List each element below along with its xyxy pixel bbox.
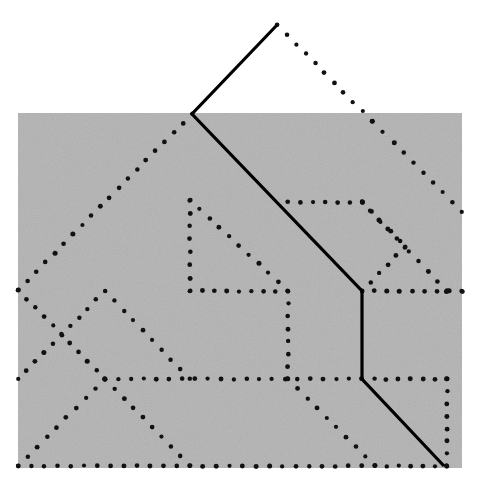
path-dot xyxy=(360,199,364,203)
path-dot xyxy=(395,236,400,241)
path-dot xyxy=(131,406,136,411)
path-dot xyxy=(411,160,415,164)
path-dot xyxy=(269,377,273,381)
path-dot xyxy=(433,377,438,382)
path-dot xyxy=(416,259,421,264)
path-dot xyxy=(80,223,84,227)
path-dot xyxy=(333,464,338,469)
path-dot xyxy=(285,289,289,293)
path-dot xyxy=(102,376,107,381)
path-dot xyxy=(280,464,284,468)
path-dot xyxy=(286,352,291,357)
path-dot xyxy=(200,464,205,469)
path-dot xyxy=(354,444,359,449)
path-dot xyxy=(323,200,328,205)
path-dot xyxy=(346,463,351,468)
path-dot xyxy=(276,279,281,284)
path-dot xyxy=(161,463,166,468)
path-dot xyxy=(311,200,315,204)
path-dot xyxy=(450,200,455,205)
path-dot xyxy=(460,210,464,214)
path-dot xyxy=(51,323,55,327)
path-dot xyxy=(74,406,79,411)
path-dot xyxy=(334,377,338,381)
path-dot xyxy=(200,288,205,293)
path-dot xyxy=(447,288,452,293)
path-dot xyxy=(42,314,47,319)
path-dot xyxy=(61,241,66,246)
path-dot xyxy=(159,348,163,352)
path-dot xyxy=(142,376,146,380)
path-dot xyxy=(370,119,375,124)
path-dot xyxy=(261,289,266,294)
figure-canvas xyxy=(0,0,488,488)
path-dot xyxy=(285,314,290,319)
path-dot xyxy=(433,464,437,468)
path-dot xyxy=(441,190,445,194)
path-dot xyxy=(224,289,229,294)
path-dot xyxy=(24,368,29,373)
path-dot xyxy=(294,43,298,47)
path-dot xyxy=(402,150,407,155)
path-dot xyxy=(141,415,146,420)
path-dot xyxy=(460,289,465,294)
path-dot xyxy=(444,463,448,467)
path-dot xyxy=(435,279,440,284)
path-dot xyxy=(77,316,81,320)
path-dot xyxy=(187,236,192,241)
path-dot xyxy=(188,211,193,216)
path-dot xyxy=(192,376,197,381)
path-dot xyxy=(421,377,426,382)
path-dot xyxy=(187,262,192,267)
path-dot xyxy=(178,367,183,372)
path-dot xyxy=(420,464,425,469)
path-dot xyxy=(107,195,112,200)
path-dot xyxy=(321,377,326,382)
path-dot xyxy=(112,298,116,302)
path-dot xyxy=(431,180,436,185)
path-dot xyxy=(273,289,278,294)
path-dot xyxy=(150,338,154,342)
path-dot xyxy=(348,200,352,204)
path-dot xyxy=(32,359,37,364)
path-dot xyxy=(256,261,261,266)
path-dot xyxy=(295,377,300,382)
path-dot xyxy=(85,307,89,311)
path-dot xyxy=(445,389,449,393)
path-dot xyxy=(344,435,349,440)
path-dot xyxy=(53,251,58,256)
path-dot xyxy=(285,199,290,204)
path-dot xyxy=(403,245,408,250)
path-dot xyxy=(372,288,377,293)
path-dot xyxy=(294,464,299,469)
path-dot xyxy=(16,288,21,293)
path-dot xyxy=(285,377,290,382)
path-dot xyxy=(76,350,81,355)
path-dot xyxy=(444,438,449,443)
path-dot xyxy=(126,176,130,180)
path-dot xyxy=(341,90,346,95)
path-dot xyxy=(89,213,94,218)
path-dot xyxy=(372,376,376,380)
path-dot xyxy=(363,454,367,458)
path-dot xyxy=(135,167,139,171)
path-dot xyxy=(166,377,171,382)
path-dot xyxy=(131,318,135,322)
path-dot xyxy=(180,376,185,381)
path-dot xyxy=(444,414,449,419)
path-dot xyxy=(29,464,33,468)
path-dot xyxy=(147,464,152,469)
path-dot xyxy=(407,249,411,253)
path-dot xyxy=(34,269,39,274)
path-dot xyxy=(94,297,99,302)
path-dot xyxy=(359,463,364,468)
path-dot xyxy=(141,328,146,333)
path-dot xyxy=(380,130,384,134)
path-dot xyxy=(266,270,270,274)
path-dot xyxy=(313,61,318,66)
path-dot xyxy=(162,140,167,145)
path-dot xyxy=(395,376,400,381)
path-dot xyxy=(197,207,201,211)
path-dot xyxy=(68,324,72,328)
path-dot xyxy=(445,427,450,432)
